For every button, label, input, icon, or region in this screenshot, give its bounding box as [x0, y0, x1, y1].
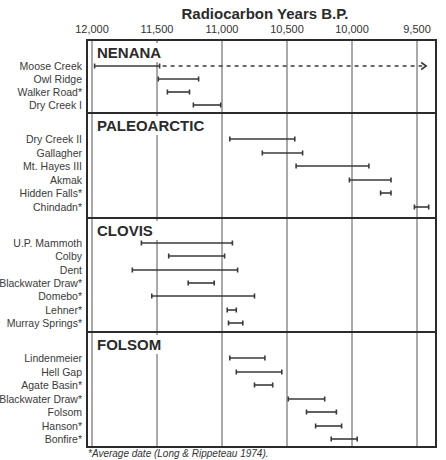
range-bar — [296, 164, 369, 169]
site-label: Bonfire* — [45, 433, 82, 445]
x-tick-label: 9,500 — [403, 23, 431, 35]
chart-title: Radiocarbon Years B.P. — [181, 5, 348, 22]
range-bar — [349, 178, 391, 183]
footnote: *Average date (Long & Rippeteau 1974). — [88, 448, 269, 459]
range-bar — [95, 63, 427, 70]
site-label: Hanson* — [42, 420, 82, 432]
range-bar — [381, 191, 391, 196]
range-bar — [331, 437, 357, 442]
site-label: Blackwater Draw* — [0, 393, 82, 405]
site-label: Colby — [55, 250, 83, 262]
range-bar — [230, 356, 265, 361]
site-label: Dent — [60, 264, 82, 276]
x-tick-label: 11,500 — [141, 23, 174, 35]
site-label: Murray Springs* — [7, 317, 82, 329]
site-label: Walker Road* — [18, 86, 82, 98]
range-bar — [227, 308, 236, 313]
site-label: Lehner* — [45, 304, 82, 316]
site-label: Blackwater Draw* — [0, 277, 82, 289]
site-label: Gallagher — [36, 147, 82, 159]
range-bar — [193, 103, 220, 108]
site-label: Hidden Falls* — [20, 187, 82, 199]
range-bar — [188, 281, 214, 286]
x-tick-label: 10,500 — [270, 23, 304, 35]
section-title-folsom: FOLSOM — [97, 336, 161, 353]
site-label: Agate Basin* — [21, 379, 82, 391]
range-bar — [152, 294, 255, 299]
x-axis-ticks: 12,00011,50011,00010,50010,0009,500 — [75, 23, 431, 35]
site-label: Moose Creek — [20, 60, 83, 72]
range-bar — [167, 90, 189, 95]
section-title-nenana: NENANA — [97, 44, 161, 61]
site-label: Akmak — [50, 174, 83, 186]
site-label: Folsom — [48, 406, 83, 418]
range-bar — [236, 370, 281, 375]
site-label: Lindenmeier — [24, 352, 82, 364]
range-bar — [230, 137, 295, 142]
range-bar — [307, 410, 337, 415]
x-tick-label: 10,000 — [335, 23, 369, 35]
range-bar — [169, 254, 225, 259]
site-label: Dry Creek II — [26, 133, 82, 145]
x-tick-label: 11,000 — [206, 23, 239, 35]
site-label: Chindadn* — [33, 201, 82, 213]
site-label: Mt. Hayes III — [23, 160, 82, 172]
range-bar — [158, 77, 198, 82]
x-tick-label: 12,000 — [75, 23, 109, 35]
site-label: U.P. Mammoth — [13, 237, 82, 249]
range-bar — [288, 397, 324, 402]
range-bar — [316, 424, 342, 429]
range-bar — [262, 151, 302, 156]
range-bar — [229, 321, 243, 326]
site-label: Owl Ridge — [34, 73, 83, 85]
radiocarbon-chart: Radiocarbon Years B.P. 12,00011,50011,00… — [0, 0, 446, 460]
range-bar — [255, 383, 273, 388]
section-title-paleoarctic: PALEOARCTIC — [97, 117, 204, 134]
site-label: Dry Creek I — [29, 99, 82, 111]
chart-frame — [87, 40, 436, 447]
site-label: Domebo* — [38, 290, 82, 302]
range-bar — [141, 241, 232, 246]
site-label: Hell Gap — [41, 366, 82, 378]
section-title-clovis: CLOVIS — [97, 222, 153, 239]
